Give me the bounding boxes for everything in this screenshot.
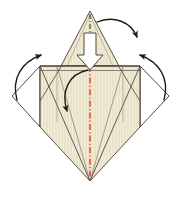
origami-diagram	[0, 0, 181, 198]
top-right-fold-arrow	[97, 19, 137, 37]
origami-illustration	[0, 0, 181, 198]
